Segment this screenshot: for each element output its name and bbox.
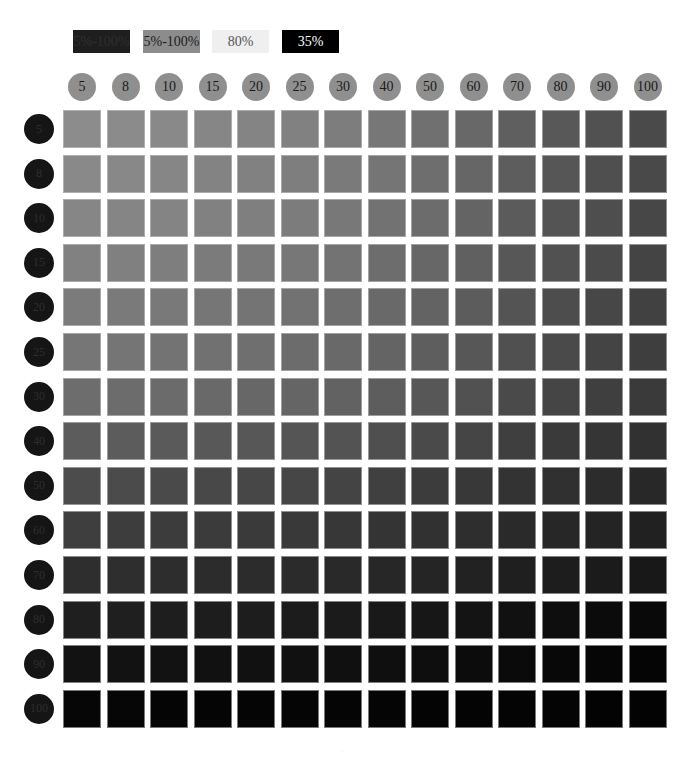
swatch-cell	[455, 199, 493, 237]
swatch-cell	[63, 199, 101, 237]
swatch-cell	[585, 422, 623, 460]
swatch-cell	[194, 556, 232, 594]
swatch-cell	[368, 378, 406, 416]
swatch-cell	[585, 333, 623, 371]
swatch-cell	[498, 110, 536, 148]
swatch-cell	[324, 645, 362, 683]
swatch-cell	[411, 690, 449, 728]
row-header: 80	[24, 605, 54, 635]
swatch-cell	[498, 155, 536, 193]
swatch-cell	[498, 645, 536, 683]
column-header: 30	[329, 73, 357, 101]
swatch-cell	[455, 155, 493, 193]
column-header: 15	[199, 73, 227, 101]
swatch-cell	[237, 199, 275, 237]
swatch-cell	[150, 110, 188, 148]
swatch-cell	[629, 422, 667, 460]
swatch-cell	[368, 244, 406, 282]
swatch-cell	[542, 378, 580, 416]
swatch-cell	[455, 333, 493, 371]
swatch-cell	[281, 199, 319, 237]
footer-note: ···	[340, 748, 347, 756]
row-header: 60	[24, 515, 54, 545]
swatch-cell	[150, 378, 188, 416]
swatch-cell	[324, 378, 362, 416]
row-header: 30	[24, 382, 54, 412]
swatch-cell	[368, 645, 406, 683]
swatch-cell	[63, 467, 101, 505]
swatch-cell	[107, 288, 145, 326]
swatch-cell	[542, 110, 580, 148]
swatch-cell	[107, 199, 145, 237]
column-header: 5	[68, 73, 96, 101]
swatch-cell	[237, 601, 275, 639]
swatch-cell	[455, 378, 493, 416]
swatch-cell	[107, 333, 145, 371]
swatch-cell	[498, 511, 536, 549]
swatch-cell	[542, 422, 580, 460]
swatch-cell	[411, 645, 449, 683]
swatch-cell	[194, 288, 232, 326]
swatch-cell	[237, 422, 275, 460]
swatch-cell	[368, 467, 406, 505]
swatch-cell	[542, 511, 580, 549]
swatch-cell	[324, 556, 362, 594]
swatch-cell	[368, 511, 406, 549]
swatch-cell	[194, 333, 232, 371]
swatch-cell	[498, 244, 536, 282]
swatch-cell	[107, 244, 145, 282]
swatch-cell	[237, 645, 275, 683]
swatch-cell	[542, 199, 580, 237]
swatch-cell	[281, 467, 319, 505]
swatch-cell	[629, 333, 667, 371]
column-header: 25	[286, 73, 314, 101]
swatch-cell	[368, 110, 406, 148]
swatch-cell	[455, 645, 493, 683]
swatch-cell	[194, 645, 232, 683]
swatch-cell	[150, 511, 188, 549]
swatch-cell	[150, 467, 188, 505]
swatch-cell	[150, 556, 188, 594]
swatch-cell	[63, 288, 101, 326]
swatch-cell	[585, 244, 623, 282]
swatch-cell	[63, 378, 101, 416]
swatch-cell	[368, 422, 406, 460]
swatch-cell	[194, 110, 232, 148]
swatch-cell	[542, 333, 580, 371]
swatch-cell	[411, 556, 449, 594]
swatch-cell	[455, 244, 493, 282]
row-header: 90	[24, 649, 54, 679]
swatch-cell	[194, 511, 232, 549]
swatch-cell	[150, 199, 188, 237]
swatch-cell	[150, 690, 188, 728]
swatch-cell	[411, 467, 449, 505]
swatch-cell	[368, 333, 406, 371]
swatch-cell	[63, 244, 101, 282]
swatch-cell	[585, 155, 623, 193]
swatch-cell	[629, 110, 667, 148]
swatch-cell	[281, 288, 319, 326]
column-header: 70	[503, 73, 531, 101]
swatch-cell	[629, 199, 667, 237]
column-header: 10	[155, 73, 183, 101]
swatch-cell	[368, 155, 406, 193]
swatch-cell	[281, 645, 319, 683]
swatch-cell	[237, 155, 275, 193]
swatch-cell	[411, 199, 449, 237]
swatch-cell	[411, 511, 449, 549]
swatch-cell	[150, 645, 188, 683]
swatch-cell	[324, 601, 362, 639]
swatch-cell	[107, 511, 145, 549]
swatch-cell	[63, 601, 101, 639]
swatch-cell	[194, 378, 232, 416]
swatch-cell	[63, 690, 101, 728]
swatch-cell	[585, 378, 623, 416]
swatch-cell	[585, 690, 623, 728]
swatch-cell	[455, 288, 493, 326]
swatch-cell	[324, 288, 362, 326]
swatch-cell	[150, 422, 188, 460]
swatch-cell	[368, 288, 406, 326]
swatch-cell	[324, 511, 362, 549]
legend-item: 80%	[212, 30, 269, 53]
column-header: 20	[242, 73, 270, 101]
